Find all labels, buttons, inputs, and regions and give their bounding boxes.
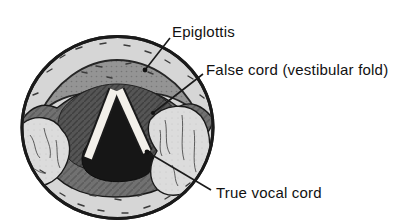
figure-canvas: Epiglottis False cord (vestibular fold) … (0, 0, 403, 220)
epiglottis-label: Epiglottis (172, 23, 235, 40)
false-cord-pointer-dot (151, 111, 155, 115)
false-cord-label: False cord (vestibular fold) (206, 61, 388, 78)
right-pyriform-lobe (148, 106, 210, 195)
epiglottis-pointer-dot (143, 68, 148, 73)
true-vocal-cord-pointer-dot (145, 150, 150, 155)
true-vocal-cord-label: True vocal cord (216, 184, 322, 201)
